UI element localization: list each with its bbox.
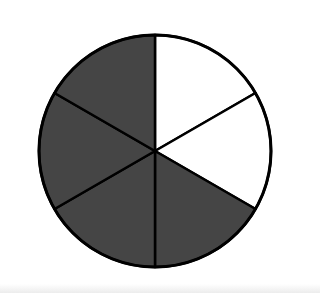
fraction-circle	[0, 0, 320, 293]
bottom-shadow	[0, 284, 320, 293]
